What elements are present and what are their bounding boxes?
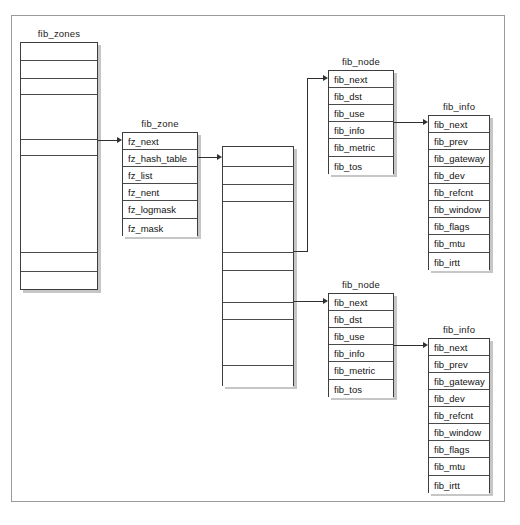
table-row	[223, 320, 293, 366]
connector-node-bottom-to-info-bottom	[394, 345, 426, 346]
struct-fib-node-bottom-body: fib_next fib_dst fib_use fib_info fib_me…	[328, 293, 394, 397]
table-row: fib_refcnt	[429, 184, 489, 201]
table-row: fib_gateway	[429, 373, 489, 390]
struct-fib-info-bottom-title: fib_info	[428, 324, 490, 335]
table-row: fib_dev	[429, 390, 489, 407]
table-row	[21, 79, 97, 95]
struct-fib-zone-body: fz_next fz_hash_table fz_list fz_nent fz…	[122, 132, 198, 236]
table-row	[21, 43, 97, 61]
table-row: fib_metric	[329, 139, 393, 157]
table-row	[21, 156, 97, 253]
struct-fib-node-top-title: fib_node	[328, 56, 394, 67]
table-row: fib_metric	[329, 362, 393, 380]
table-row: fib_mtu	[429, 235, 489, 253]
struct-fib-zone-title: fib_zone	[122, 118, 198, 129]
table-row: fib_tos	[329, 157, 393, 175]
connector-hashtable-to-node-top-h1	[294, 251, 308, 252]
table-row	[223, 366, 293, 387]
struct-fib-info-top-body: fib_next fib_prev fib_gateway fib_dev fi…	[428, 115, 490, 270]
connector-hashtable-to-node-top-v	[307, 78, 308, 252]
table-row: fib_irtt	[429, 476, 489, 494]
table-row	[21, 272, 97, 289]
table-row: fib_tos	[329, 380, 393, 398]
table-row: fz_logmask	[123, 201, 197, 219]
table-row: fz_list	[123, 167, 197, 184]
table-row	[223, 303, 293, 320]
diagram-canvas: fib_zones fib_zone fz_next fz_hash_table…	[0, 0, 520, 525]
table-row: fz_hash_table	[123, 150, 197, 167]
struct-fib-node-top-body: fib_next fib_dst fib_use fib_info fib_me…	[328, 70, 394, 174]
struct-fib-info-bottom-body: fib_next fib_prev fib_gateway fib_dev fi…	[428, 338, 490, 493]
table-row: fib_next	[429, 339, 489, 356]
table-row	[223, 271, 293, 303]
table-row	[223, 147, 293, 167]
table-row: fib_dst	[329, 88, 393, 105]
table-row: fib_flags	[429, 441, 489, 458]
connector-node-top-to-info-top	[394, 122, 426, 123]
table-row: fib_dst	[329, 311, 393, 328]
struct-fib-info-top-title: fib_info	[428, 101, 490, 112]
table-row: fib_prev	[429, 133, 489, 150]
table-row: fib_next	[429, 116, 489, 133]
struct-fib-zones-title: fib_zones	[20, 28, 98, 39]
table-row: fib_mtu	[429, 458, 489, 476]
connector-hashtable-to-node-bottom	[294, 301, 326, 302]
table-row	[223, 185, 293, 202]
table-row	[223, 167, 293, 185]
table-row: fz_nent	[123, 184, 197, 201]
struct-hash-table-body	[222, 146, 294, 386]
table-row: fz_mask	[123, 219, 197, 237]
table-row: fib_info	[329, 345, 393, 362]
table-row	[223, 253, 293, 271]
table-row: fib_refcnt	[429, 407, 489, 424]
table-row	[21, 140, 97, 156]
struct-fib-node-bottom-title: fib_node	[328, 279, 394, 290]
table-row: fib_window	[429, 201, 489, 218]
table-row: fib_prev	[429, 356, 489, 373]
table-row: fib_irtt	[429, 253, 489, 271]
table-row: fib_use	[329, 105, 393, 122]
struct-fib-zones-body	[20, 42, 98, 290]
table-row	[21, 95, 97, 140]
table-row: fib_dev	[429, 167, 489, 184]
table-row: fib_info	[329, 122, 393, 139]
table-row: fz_next	[123, 133, 197, 150]
table-row	[21, 253, 97, 272]
table-row: fib_window	[429, 424, 489, 441]
table-row: fib_flags	[429, 218, 489, 235]
table-row: fib_next	[329, 294, 393, 311]
table-row: fib_use	[329, 328, 393, 345]
table-row	[21, 61, 97, 79]
table-row	[223, 202, 293, 253]
table-row: fib_next	[329, 71, 393, 88]
table-row: fib_gateway	[429, 150, 489, 167]
